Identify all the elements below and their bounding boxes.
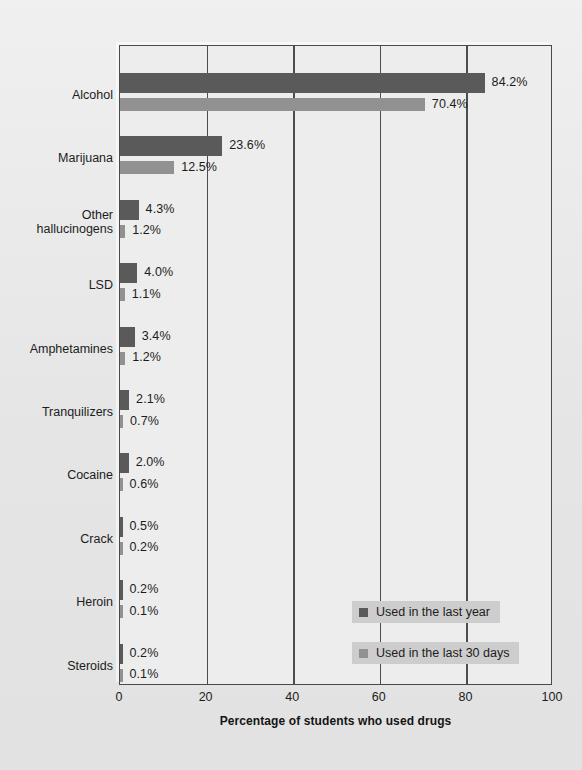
bar: [120, 352, 125, 365]
bar-value-label: 0.7%: [130, 414, 159, 428]
category-label: Alcohol: [0, 88, 113, 102]
category-label: Crack: [0, 532, 113, 546]
bar: [120, 288, 125, 301]
x-tick-label: 60: [372, 690, 386, 704]
bar: [120, 517, 123, 537]
x-tick-label: 0: [116, 690, 123, 704]
bar-value-label: 0.1%: [130, 604, 159, 618]
bar-value-label: 1.1%: [132, 287, 161, 301]
x-tick-label: 20: [199, 690, 213, 704]
bar: [120, 327, 135, 347]
bar-value-label: 3.4%: [142, 329, 171, 343]
bar: [120, 580, 123, 600]
category-label: Other hallucinogens: [0, 208, 113, 236]
category-label: Heroin: [0, 595, 113, 609]
bar: [120, 161, 174, 174]
bar-value-label: 4.0%: [144, 265, 173, 279]
bar-value-label: 2.0%: [136, 455, 165, 469]
bar-value-label: 84.2%: [492, 75, 528, 89]
x-tick-label: 100: [542, 690, 563, 704]
bar: [120, 669, 123, 682]
bar-value-label: 0.2%: [130, 582, 159, 596]
legend-item[interactable]: Used in the last year: [352, 601, 500, 623]
plot-area: 84.2%70.4%23.6%12.5%4.3%1.2%4.0%1.1%3.4%…: [119, 45, 552, 685]
bar: [120, 542, 123, 555]
bar: [120, 415, 123, 428]
category-label: Steroids: [0, 659, 113, 673]
bar-value-label: 1.2%: [132, 223, 161, 237]
bar-value-label: 0.5%: [130, 519, 159, 533]
bar: [120, 73, 485, 93]
gridline-60: [380, 46, 382, 684]
category-label: Marijuana: [0, 151, 113, 165]
bar-value-label: 0.2%: [130, 646, 159, 660]
x-axis-title: Percentage of students who used drugs: [119, 714, 552, 728]
category-label: Tranquilizers: [0, 405, 113, 419]
bar: [120, 478, 123, 491]
x-tick-label: 40: [285, 690, 299, 704]
category-label: Amphetamines: [0, 342, 113, 356]
y-axis-category-labels: AlcoholMarijuanaOther hallucinogensLSDAm…: [0, 45, 113, 685]
bar-value-label: 0.1%: [130, 667, 159, 681]
bar-value-label: 2.1%: [136, 392, 165, 406]
legend-swatch-icon: [359, 608, 368, 617]
bar-value-label: 4.3%: [146, 202, 175, 216]
bar-value-label: 0.2%: [130, 540, 159, 554]
legend-item[interactable]: Used in the last 30 days: [352, 642, 519, 664]
category-label: Cocaine: [0, 468, 113, 482]
legend-swatch-icon: [359, 649, 368, 658]
bar-value-label: 12.5%: [181, 160, 217, 174]
bar: [120, 644, 123, 664]
bar: [120, 225, 125, 238]
bar-value-label: 70.4%: [432, 97, 468, 111]
bar: [120, 263, 137, 283]
x-axis-tick-labels: 020406080100: [0, 690, 582, 710]
bar: [120, 200, 139, 220]
bar: [120, 390, 129, 410]
bar: [120, 453, 129, 473]
bar-value-label: 1.2%: [132, 350, 161, 364]
legend-label: Used in the last 30 days: [376, 646, 509, 660]
chart-page: AlcoholMarijuanaOther hallucinogensLSDAm…: [0, 0, 582, 770]
gridline-40: [293, 46, 295, 684]
bar-value-label: 23.6%: [229, 138, 265, 152]
category-label: LSD: [0, 278, 113, 292]
x-tick-label: 80: [458, 690, 472, 704]
legend-label: Used in the last year: [376, 605, 490, 619]
bar-value-label: 0.6%: [130, 477, 159, 491]
bar: [120, 98, 425, 111]
gridline-80: [466, 46, 468, 684]
bar: [120, 605, 123, 618]
bar: [120, 136, 222, 156]
